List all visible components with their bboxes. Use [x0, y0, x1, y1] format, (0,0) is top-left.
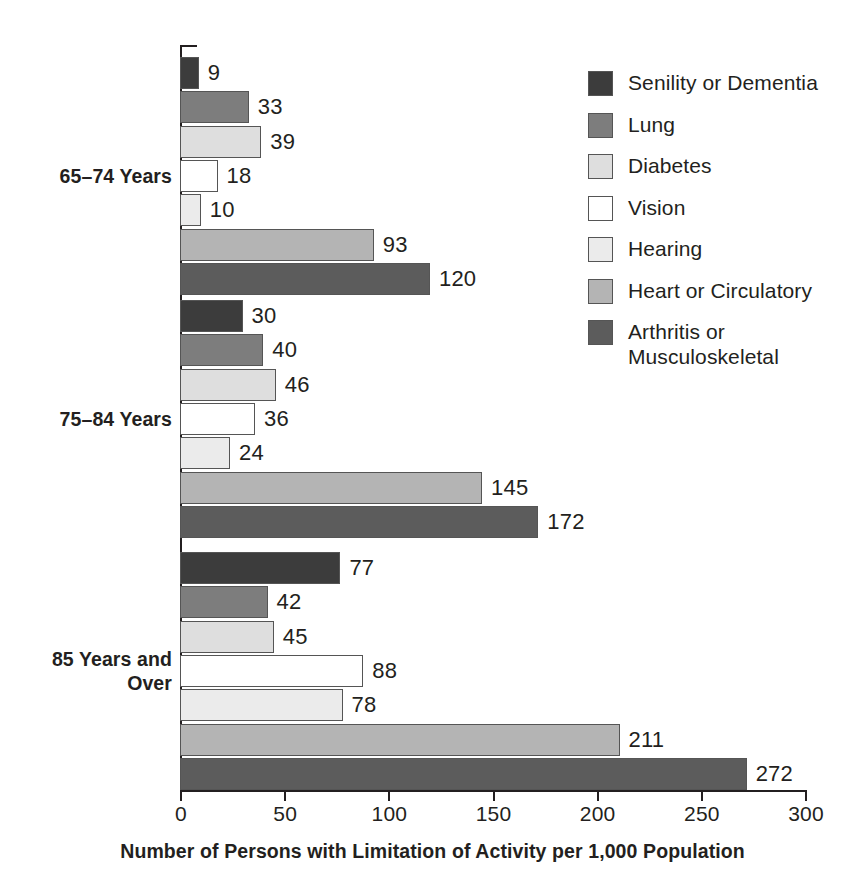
bar-value-label: 211 [629, 727, 665, 753]
x-tick-label: 200 [580, 802, 616, 826]
bar [180, 229, 374, 261]
x-tick [180, 790, 182, 801]
bar-value-label: 172 [547, 509, 584, 535]
bar-row: 272 [180, 758, 805, 790]
x-tick-label: 50 [273, 802, 297, 826]
legend-item[interactable]: Arthritis or Musculoskeletal [588, 319, 863, 369]
bar-row: 211 [180, 724, 805, 756]
bar [180, 369, 276, 401]
bar [180, 91, 249, 123]
bar [180, 758, 747, 790]
x-tick-label: 250 [684, 802, 720, 826]
bar [180, 403, 255, 435]
x-tick [597, 790, 599, 801]
bar-value-label: 88 [372, 658, 397, 684]
bar-value-label: 46 [285, 372, 310, 398]
legend-item[interactable]: Hearing [588, 236, 863, 262]
bar-value-label: 33 [258, 94, 283, 120]
legend-label: Arthritis or Musculoskeletal [628, 319, 779, 369]
bar [180, 57, 199, 89]
legend: Senility or DementiaLungDiabetesVisionHe… [588, 70, 863, 385]
bar [180, 724, 620, 756]
bar-value-label: 77 [349, 555, 374, 581]
legend-label: Vision [628, 195, 685, 220]
legend-swatch-icon [588, 279, 613, 304]
group-label: 85 Years and Over [2, 647, 172, 695]
legend-swatch-icon [588, 113, 613, 138]
bar-row: 77 [180, 552, 805, 584]
legend-item[interactable]: Lung [588, 112, 863, 138]
bar-row: 145 [180, 472, 805, 504]
bar-chart: 050100150200250300 933391810931203040463… [0, 0, 865, 896]
bar-value-label: 30 [252, 303, 277, 329]
legend-label: Diabetes [628, 153, 712, 178]
bar [180, 689, 343, 721]
legend-label: Senility or Dementia [628, 70, 818, 95]
legend-label: Lung [628, 112, 675, 137]
x-tick-label: 300 [788, 802, 824, 826]
legend-label: Heart or Circulatory [628, 278, 812, 303]
bar-row: 42 [180, 586, 805, 618]
bar [180, 655, 363, 687]
bar-value-label: 39 [270, 129, 295, 155]
x-axis-title: Number of Persons with Limitation of Act… [0, 840, 865, 863]
x-tick [388, 790, 390, 801]
x-tick-label: 100 [372, 802, 408, 826]
bar-value-label: 45 [283, 624, 308, 650]
bar-value-label: 18 [227, 163, 252, 189]
y-axis-top-cap [180, 45, 197, 47]
legend-swatch-icon [588, 320, 613, 345]
legend-item[interactable]: Heart or Circulatory [588, 278, 863, 304]
bar [180, 552, 340, 584]
bar-value-label: 93 [383, 232, 408, 258]
group-label: 75–84 Years [2, 407, 172, 431]
legend-item[interactable]: Vision [588, 195, 863, 221]
bar-value-label: 42 [277, 589, 302, 615]
bar-value-label: 120 [439, 266, 476, 292]
group-label: 65–74 Years [2, 164, 172, 188]
legend-swatch-icon [588, 71, 613, 96]
bar [180, 126, 261, 158]
bar-row: 78 [180, 689, 805, 721]
bar [180, 472, 482, 504]
bar [180, 621, 274, 653]
bar-value-label: 40 [272, 337, 297, 363]
legend-swatch-icon [588, 154, 613, 179]
bar-value-label: 9 [208, 60, 220, 86]
x-tick-label: 150 [476, 802, 512, 826]
bar-row: 45 [180, 621, 805, 653]
legend-label: Hearing [628, 236, 702, 261]
legend-item[interactable]: Senility or Dementia [588, 70, 863, 96]
x-tick [284, 790, 286, 801]
bar-row: 88 [180, 655, 805, 687]
x-tick [493, 790, 495, 801]
bar [180, 506, 538, 538]
bar-value-label: 272 [756, 761, 793, 787]
bar-row: 36 [180, 403, 805, 435]
legend-swatch-icon [588, 196, 613, 221]
bar [180, 300, 243, 332]
x-tick [805, 790, 807, 801]
legend-item[interactable]: Diabetes [588, 153, 863, 179]
bar-row: 24 [180, 437, 805, 469]
bar-value-label: 36 [264, 406, 289, 432]
bar-value-label: 78 [352, 692, 377, 718]
bar [180, 194, 201, 226]
bar [180, 334, 263, 366]
bar [180, 263, 430, 295]
x-tick-label: 0 [175, 802, 187, 826]
bar-value-label: 145 [491, 475, 528, 501]
bar-value-label: 10 [210, 197, 235, 223]
bar [180, 586, 268, 618]
bar-row: 172 [180, 506, 805, 538]
bar-value-label: 24 [239, 440, 264, 466]
x-tick [701, 790, 703, 801]
bar [180, 160, 218, 192]
bar [180, 437, 230, 469]
legend-swatch-icon [588, 237, 613, 262]
